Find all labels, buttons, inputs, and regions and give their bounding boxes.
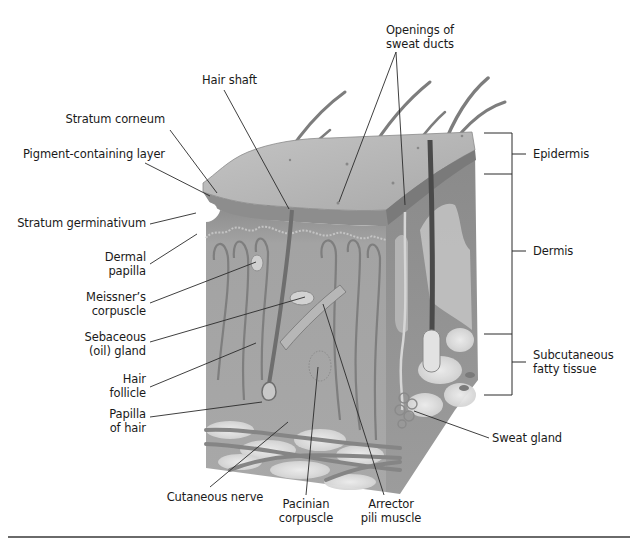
- label-hair-shaft: Hair shaft: [202, 73, 257, 87]
- layer-label-dermis: Dermis: [533, 244, 573, 258]
- bottom-rule-divider: [8, 536, 630, 538]
- layer-label-epidermis: Epidermis: [533, 147, 589, 161]
- layer-brackets: [484, 133, 526, 395]
- label-pacinian-corpuscle: Pacinian corpuscle: [266, 497, 346, 525]
- label-sebaceous-gland: Sebaceous (oil) gland: [46, 330, 146, 358]
- label-sweat-gland: Sweat gland: [492, 431, 562, 445]
- label-meissners-corpuscle: Meissner’s corpuscle: [46, 290, 146, 318]
- label-pigment-containing-layer: Pigment-containing layer: [0, 147, 165, 161]
- label-stratum-germinativum: Stratum germinativum: [0, 216, 146, 230]
- label-cutaneous-nerve: Cutaneous nerve: [160, 490, 270, 504]
- skin-diagram: Openings of sweat ducts Hair shaft Strat…: [0, 0, 630, 552]
- label-dermal-papilla: Dermal papilla: [60, 250, 146, 278]
- label-papilla-of-hair: Papilla of hair: [46, 407, 146, 435]
- label-openings-of-sweat-ducts: Openings of sweat ducts: [370, 23, 470, 51]
- layer-label-subcutaneous: Subcutaneous fatty tissue: [533, 348, 614, 376]
- label-arrector-pili-muscle: Arrector pili muscle: [346, 497, 436, 525]
- label-stratum-corneum: Stratum corneum: [40, 112, 165, 126]
- label-hair-follicle: Hair follicle: [46, 372, 146, 400]
